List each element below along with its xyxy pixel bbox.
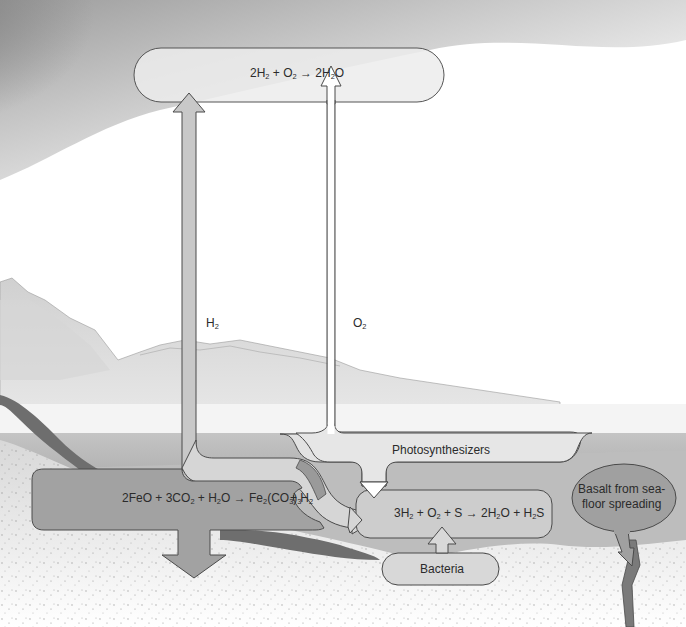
diagram-canvas: 2H2 + O2 → 2H2O H2 O2 Photosynthesizers … [0, 0, 686, 627]
o2-edge-label: O2 [353, 316, 366, 330]
basalt-label: Basalt from sea-floor spreading [578, 482, 665, 512]
scene-artwork [0, 0, 686, 627]
h2-byproduct-label: + H2 [290, 491, 313, 505]
iron-reaction-label: 2FeO + 3CO2 + H2O → Fe2(CO3)3 [122, 491, 301, 505]
bacteria-label: Bacteria [420, 562, 464, 576]
shoreline-water [0, 404, 686, 434]
h2-edge-label: H2 [206, 316, 219, 330]
top-reaction-label: 2H2 + O2 → 2H2O [250, 66, 344, 80]
sulfur-reaction-label: 3H2 + O2 + S → 2H2O + H2S [394, 506, 544, 520]
photosynthesizers-label: Photosynthesizers [392, 443, 490, 457]
